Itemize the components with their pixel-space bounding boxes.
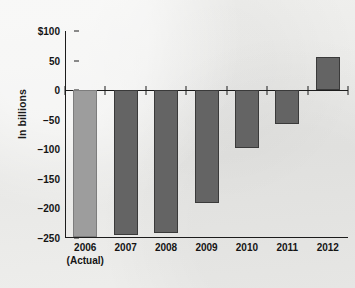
x-axis-line xyxy=(65,237,348,238)
x-tick-label-year: 2009 xyxy=(195,242,217,253)
zero-tick-mark xyxy=(186,86,187,95)
x-tick-label-year: 2011 xyxy=(276,242,298,253)
zero-tick-mark xyxy=(348,86,349,95)
bar-2011 xyxy=(275,90,299,124)
y-tick-label-0: 0 xyxy=(16,85,60,96)
bar-2012 xyxy=(316,57,340,90)
zero-tick-mark xyxy=(226,86,227,95)
x-tick-label-year: 2008 xyxy=(155,242,177,253)
bar-2009 xyxy=(195,90,219,203)
y-tick-label-neg150: −150 xyxy=(16,173,60,184)
zero-tick-mark xyxy=(145,86,146,95)
bar-2010 xyxy=(235,90,259,147)
y-tick-label-100: $100 xyxy=(16,26,60,37)
zero-tick-mark xyxy=(105,86,106,95)
plot-area xyxy=(65,31,348,238)
bar-chart: In billions $100500−50−100−150−200−250 2… xyxy=(0,0,355,288)
y-tick-label-neg200: −200 xyxy=(16,203,60,214)
x-tick-label-year: 2006 xyxy=(74,242,96,253)
bar-2006 xyxy=(73,90,97,237)
y-axis-tick-labels: $100500−50−100−150−200−250 xyxy=(14,0,60,288)
zero-tick-mark xyxy=(267,86,268,95)
x-tick-label-year: 2007 xyxy=(115,242,137,253)
y-axis-line xyxy=(65,31,66,238)
y-tick-label-neg100: −100 xyxy=(16,144,60,155)
x-tick-label-year: 2010 xyxy=(236,242,258,253)
zero-tick-mark xyxy=(307,86,308,95)
zero-tick-mark xyxy=(65,86,66,95)
y-tick-label-50: 50 xyxy=(16,55,60,66)
x-tick-label-2012: 2012 xyxy=(298,242,355,255)
x-tick-label-year: 2012 xyxy=(317,242,339,253)
x-tick-label-note: (Actual) xyxy=(55,255,115,268)
y-tick-label-neg250: −250 xyxy=(16,233,60,244)
bar-2008 xyxy=(154,90,178,233)
y-tick-label-neg50: −50 xyxy=(16,114,60,125)
bar-2007 xyxy=(114,90,138,235)
